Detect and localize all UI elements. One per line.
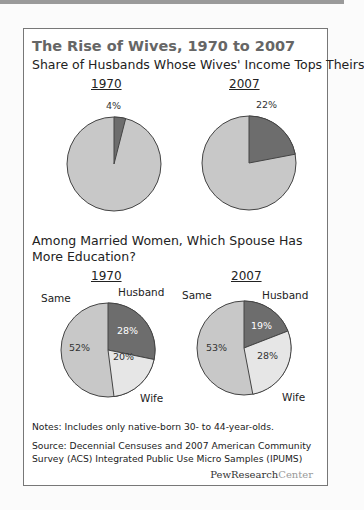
pie3-same-pct: 52% (69, 342, 90, 353)
section2-heading: Among Married Women, Which Spouse Has Mo… (32, 233, 322, 265)
chart-title: The Rise of Wives, 1970 to 2007 (32, 38, 295, 54)
pie2-label: 22% (256, 99, 277, 110)
notes-text: Notes: Includes only native-born 30- to … (32, 421, 274, 432)
chart-frame: The Rise of Wives, 1970 to 2007 Share of… (23, 28, 328, 486)
brand-light: Center (278, 469, 313, 480)
pie3-year: 1970 (91, 269, 122, 283)
top-bar (0, 0, 344, 4)
pie3-husband-pct: 28% (117, 325, 138, 336)
pie1-year: 1970 (91, 77, 122, 91)
pew-logo: PewResearchCenter (210, 469, 313, 480)
pie-income-1970 (66, 116, 162, 212)
pie2-year: 2007 (229, 77, 260, 91)
pie3-wife-pct: 20% (113, 351, 134, 362)
pie4-same-pct: 53% (206, 342, 227, 353)
pie4-wife-pct: 28% (257, 350, 278, 361)
pie3-label-husband: Husband (118, 286, 164, 298)
pie-income-2007 (201, 115, 297, 211)
pie4-husband-pct: 19% (251, 320, 272, 331)
section1-heading: Share of Husbands Whose Wives' Income To… (32, 57, 364, 72)
pie4-year: 2007 (231, 269, 262, 283)
pie1-label: 4% (106, 100, 121, 111)
source-text: Source: Decennial Censuses and 2007 Amer… (32, 439, 322, 465)
brand-bold: PewResearch (210, 469, 278, 480)
